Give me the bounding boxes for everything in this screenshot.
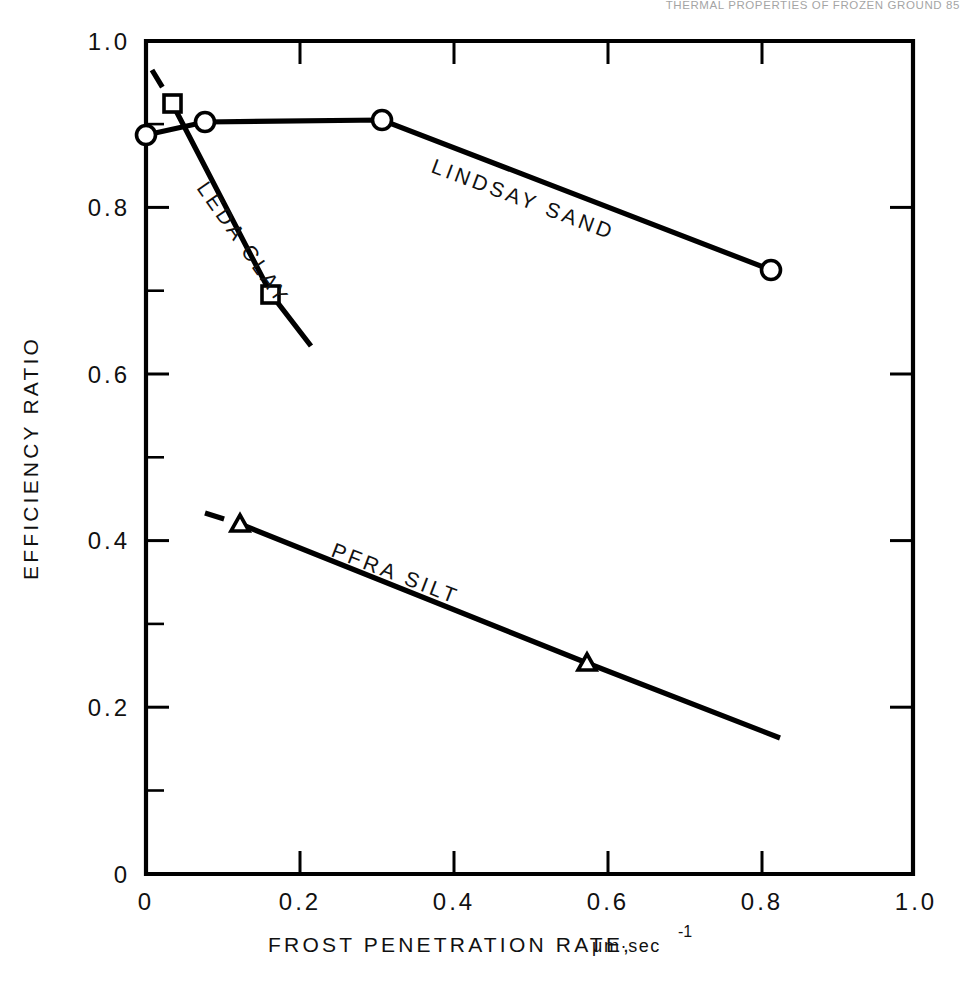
series-label-leda-clay: LEDA CLAY <box>193 177 295 308</box>
x-axis-title: FROST PENETRATION RATE, μm·sec -1 <box>268 923 692 956</box>
y-axis-title: EFFICIENCY RATIO <box>19 336 42 580</box>
x-tick-label: 1.0 <box>895 888 937 915</box>
y-tick-label: 0.4 <box>88 527 130 554</box>
y-axis-ticks-right <box>890 207 913 707</box>
x-axis-title-exponent: -1 <box>678 923 692 940</box>
y-axis-tick-labels: 1.0 0.8 0.6 0.4 0.2 0 <box>88 28 130 888</box>
x-axis-ticks-top <box>300 41 762 64</box>
data-point-marker <box>196 113 215 132</box>
series-pfra-silt: PFRA SILT <box>205 513 780 738</box>
y-tick-label: 0.6 <box>88 361 130 388</box>
figure-chart: 1.0 0.8 0.6 0.4 0.2 0 0 0.2 0.4 0.6 0.8 … <box>0 0 974 994</box>
series-leda-clay: LEDA CLAY <box>152 70 311 346</box>
y-tick-label: 1.0 <box>88 28 130 55</box>
x-tick-label: 0.4 <box>433 888 475 915</box>
data-point-marker <box>762 261 781 280</box>
y-axis-ticks <box>146 124 169 790</box>
data-point-marker <box>373 111 392 130</box>
y-tick-label: 0 <box>114 861 130 888</box>
data-point-marker <box>578 654 596 670</box>
x-tick-label: 0.6 <box>587 888 629 915</box>
data-point-marker <box>137 126 156 145</box>
pfra-silt-line <box>240 524 780 738</box>
x-tick-label: 0.8 <box>741 888 783 915</box>
data-point-marker <box>231 515 249 531</box>
data-point-marker <box>164 95 181 112</box>
plot-frame <box>146 41 913 874</box>
x-tick-label: 0 <box>138 888 154 915</box>
x-axis-title-units: μm·sec <box>592 936 661 956</box>
series-lindsay-sand: LINDSAY SAND <box>137 111 781 280</box>
x-axis-ticks <box>300 851 762 874</box>
chart-svg: 1.0 0.8 0.6 0.4 0.2 0 0 0.2 0.4 0.6 0.8 … <box>0 0 974 994</box>
x-axis-title-main: FROST PENETRATION RATE, <box>268 933 632 956</box>
x-axis-tick-labels: 0 0.2 0.4 0.6 0.8 1.0 <box>138 888 937 915</box>
series-label-pfra-silt: PFRA SILT <box>329 538 463 608</box>
y-tick-label: 0.2 <box>88 694 130 721</box>
y-tick-label: 0.8 <box>88 194 130 221</box>
x-tick-label: 0.2 <box>279 888 321 915</box>
